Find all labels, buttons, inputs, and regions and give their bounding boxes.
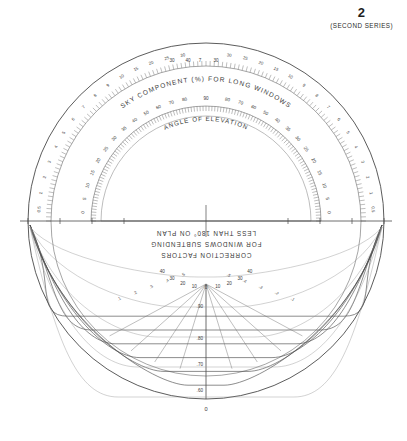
radial-factor-label: .60 [197,388,204,393]
curve-end-label-right: .2 [274,290,280,297]
inner-scale-labels: 0055101015152020252530303535404050506060… [80,96,332,214]
inner-scale-label: 25 [303,145,310,152]
inner-scale-label: 10 [321,182,327,189]
curve-end-label-right: .3 [258,284,264,291]
inner-band-group [91,106,321,221]
inner-band-title: ANGLE OF ELEVATION [162,115,249,131]
inner-scale-apex-label: 90 [203,96,209,101]
radial-factor-label: .70 [197,362,204,367]
inner-scale-label: 35 [285,125,292,132]
azimuth-label: 10 [215,284,221,289]
outer-scale-label: 3 [360,160,366,165]
inner-scale-label: 35 [120,125,127,132]
outer-scale-label: 0.5 [36,206,41,213]
inner-band-minor-ticks [91,106,321,221]
outer-scale-label: 20 [258,60,265,66]
outer-scale-label: 8 [314,93,320,99]
inner-scale-label: 70 [168,99,175,105]
azimuth-ray [180,284,206,369]
inner-scale-label: 30 [294,135,301,142]
inner-scale-arc [91,106,321,221]
inner-scale-label: 80 [182,96,188,102]
outer-scale-label: 4 [353,145,359,150]
protractor-drawing: SKY COMPONENT (%) FOR LONG WINDOWS ANGLE… [0,0,407,441]
caption-line-1: CORRECTION FACTORS [161,252,252,259]
azimuth-label: 40 [247,269,253,274]
outer-scale-label: 9 [105,82,110,88]
outer-scale-label: 1 [369,192,374,196]
outer-scale-label: 15 [273,66,280,73]
protractor-sheet: 2 (SECOND SERIES) [0,0,407,441]
curve-end-label-right: .5 [226,272,232,279]
outer-scale-apex-label: 30 [213,58,219,63]
radial-factor-label: .80 [197,336,204,341]
outer-scale-label: 8 [93,92,99,98]
outer-scale-label: 3 [47,159,53,164]
inner-scale-label: 50 [143,109,150,116]
curve-end-label-right: .4 [242,278,248,285]
inner-scale-label: 20 [95,157,102,164]
azimuth-ray [206,284,302,336]
azimuth-scale-labels: 40302010010203040 [160,269,253,290]
inner-scale-label: 25 [102,145,109,152]
caption-line-2: FOR WINDOWS SUBTENDING [150,241,261,248]
outer-scale-label: 25 [242,55,248,61]
inner-scale-label: 80 [225,97,231,103]
lower-caption-block: CORRECTION FACTORS FOR WINDOWS SUBTENDIN… [150,230,261,259]
azimuth-label: 20 [227,281,233,286]
outer-scale-label: 5 [346,130,352,135]
inner-scale-label: 70 [238,99,245,105]
azimuth-label: 40 [160,269,166,274]
caption-line-3: LESS THAN 180° ON PLAN [156,230,256,237]
outer-scale-label: 2 [365,175,371,179]
curve-end-label-right: .1 [290,296,296,303]
outer-scale-label: 10 [287,73,294,80]
outer-scale-label: 20 [148,59,155,65]
bottom-zero-label: 0 [204,406,207,412]
outer-scale-label: 9 [302,83,307,89]
inner-scale-label: 5 [325,197,330,201]
azimuth-ray [110,284,206,336]
inner-scale-label: 40 [131,117,138,124]
curve-end-label-left: .5 [180,271,186,278]
azimuth-ray [206,284,232,369]
inner-scale-label: 20 [310,157,317,164]
inner-scale-label: 10 [85,182,91,189]
inner-scale-label: 5 [82,197,87,201]
outer-scale-label: 7 [81,104,87,110]
outer-scale-label: 15 [133,65,140,72]
curve-end-label-left: .2 [132,289,138,296]
inner-scale-label: 50 [262,110,269,117]
outer-scale-label: 2 [42,175,48,179]
inner-scale-label: 15 [316,169,323,176]
inner-scale-label: 15 [89,169,96,176]
inner-scale-label: 30 [111,134,118,141]
outer-scale-label: 7 [326,104,332,110]
inner-scale-label: 0 [327,211,332,214]
radial-factor-label: .90 [197,304,204,309]
azimuth-label: 10 [192,284,198,289]
outer-scale-apex-label: 40 [185,58,191,63]
outer-scale-label: 0.5 [370,206,375,213]
outer-scale-label: 5 [61,130,67,135]
curve-end-label-left: .3 [148,283,154,290]
inner-scale-label: 60 [155,104,162,111]
outer-scale-apex-label: 30 [169,58,175,63]
inner-scale-label: 40 [274,117,281,124]
outer-scale-label: 1 [38,191,43,195]
outer-scale-label: 4 [53,144,59,149]
outer-band-title: SKY COMPONENT (%) FOR LONG WINDOWS [119,75,293,109]
azimuth-label: 20 [180,281,186,286]
outer-scale-label: 6 [70,116,76,121]
inner-scale-label: 0 [80,211,85,214]
azimuth-label: 0 [205,285,208,290]
outer-scale-apex-label: 7 [199,58,202,63]
outer-scale-label: 6 [336,117,342,122]
inner-scale-label: 60 [250,104,257,111]
outer-scale-label: 10 [118,73,125,80]
outer-scale-label: 30 [227,52,233,58]
azimuth-label: 30 [169,276,175,281]
